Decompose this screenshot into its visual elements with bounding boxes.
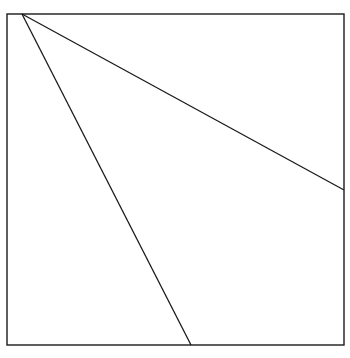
square-border <box>7 14 344 345</box>
line-drawing-canvas <box>0 0 350 358</box>
figure-container <box>0 0 350 358</box>
